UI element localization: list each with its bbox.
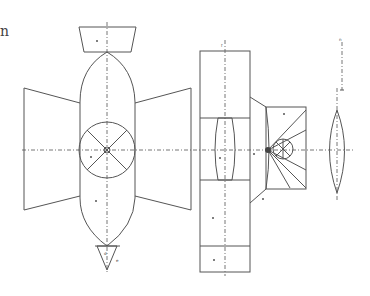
label-dot [219, 157, 221, 159]
technical-drawing: n [0, 0, 370, 296]
drawing-canvas: d e f [0, 0, 370, 296]
left-wing [24, 88, 80, 210]
right-wing [135, 88, 191, 210]
label-dot [96, 40, 98, 42]
scale-bar: n [339, 37, 344, 90]
left-assembly: d e [24, 22, 191, 272]
part-label-e: e [116, 258, 119, 263]
label-dot [213, 259, 215, 261]
connector-top [250, 97, 266, 107]
body-arch-top [80, 52, 135, 102]
lens-assembly [330, 88, 345, 200]
label-dot [262, 198, 264, 200]
label-dot [95, 200, 97, 202]
middle-column: f [200, 40, 250, 276]
fan-pivot [265, 147, 271, 153]
part-label-f: f [221, 43, 223, 48]
fan-ray [268, 110, 306, 150]
label-dot [90, 156, 92, 158]
label-dot [253, 153, 255, 155]
body-arch-bottom [80, 198, 135, 246]
top-cap [79, 27, 136, 52]
scale-label: n [339, 37, 342, 42]
label-dot [283, 113, 285, 115]
connector-bottom [250, 189, 266, 203]
label-dot [212, 217, 214, 219]
